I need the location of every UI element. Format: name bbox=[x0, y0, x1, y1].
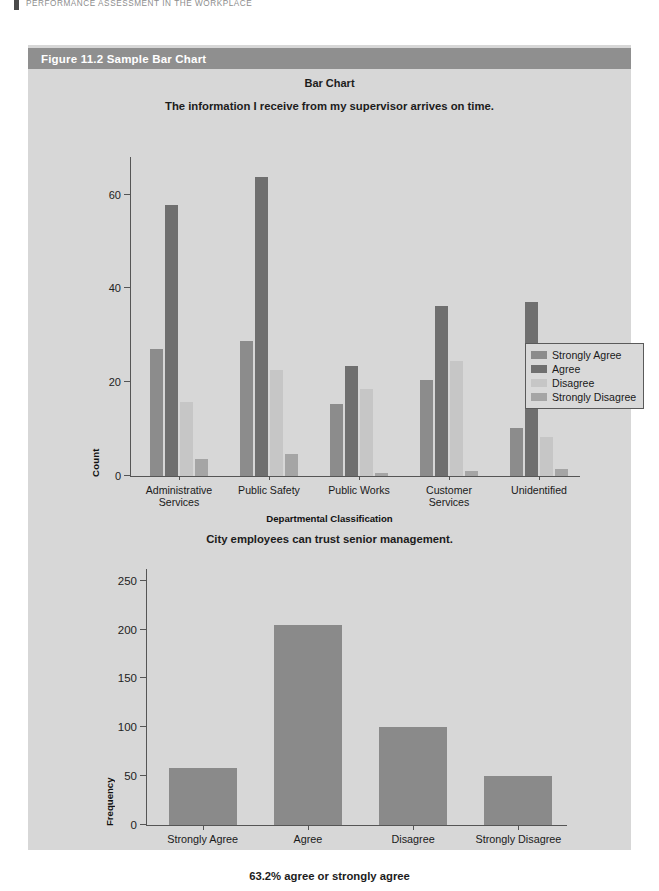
chart-2-y-tick bbox=[140, 677, 146, 678]
chart-1-x-tick bbox=[179, 476, 180, 480]
chart-1-y-tick-label: 20 bbox=[109, 376, 121, 388]
chart-1-y-tick-label: 60 bbox=[109, 189, 121, 201]
chart-1-x-tick bbox=[449, 476, 450, 480]
chart-1-x-tick-label: Unidentified bbox=[487, 484, 591, 496]
chart-1: Bar Chart The information I receive from… bbox=[28, 73, 631, 525]
chart-1-bar bbox=[420, 380, 433, 476]
chart-2-x-tick-label: Agree bbox=[293, 833, 322, 845]
chart-1-x-tick-label: Public Safety bbox=[217, 484, 321, 496]
chart-1-y-tick bbox=[124, 475, 130, 476]
chart-1-bar bbox=[375, 473, 388, 476]
chart-1-y-axis-line bbox=[130, 157, 131, 477]
chart-1-x-tick-label: Public Works bbox=[307, 484, 411, 496]
chart-2-x-tick-label: Strongly Disagree bbox=[475, 833, 561, 845]
chart-1-bar bbox=[540, 437, 553, 476]
chart-1-bar-group: Unidentified bbox=[510, 157, 568, 476]
chart-1-bar bbox=[180, 402, 193, 476]
chart-2-title: City employees can trust senior manageme… bbox=[28, 533, 631, 545]
chart-1-legend-swatch bbox=[531, 393, 547, 401]
chart-1-legend-label: Agree bbox=[552, 363, 580, 375]
chart-2-x-tick bbox=[203, 826, 204, 830]
chart-1-legend-swatch bbox=[531, 365, 547, 373]
chart-2-x-tick-label: Strongly Agree bbox=[167, 833, 238, 845]
chart-1-plot-area: 0204060Administrative ServicesPublic Saf… bbox=[130, 157, 580, 477]
chart-2-bar bbox=[274, 625, 342, 825]
running-head-text: Performance Assessment in the Workplace bbox=[26, 0, 252, 8]
chart-1-x-tick bbox=[539, 476, 540, 480]
chart-1-x-axis-line bbox=[130, 476, 580, 477]
chart-2-y-tick-label: 0 bbox=[131, 819, 137, 831]
chart-1-bar bbox=[345, 366, 358, 476]
chart-2-x-tick-label: Disagree bbox=[392, 833, 435, 845]
chart-1-bar-group: Administrative Services bbox=[150, 157, 208, 476]
figure-caption-bar: Figure 11.2 Sample Bar Chart bbox=[28, 48, 631, 69]
chart-2-y-axis-label: Frequency bbox=[104, 569, 115, 826]
chart-1-bar bbox=[255, 177, 268, 476]
vertical-rule-icon bbox=[14, 0, 19, 10]
chart-2-y-tick-label: 250 bbox=[118, 575, 137, 587]
chart-1-y-axis-label: Count bbox=[90, 157, 101, 477]
chart-1-x-tick bbox=[269, 476, 270, 480]
chart-1-bar bbox=[330, 404, 343, 476]
chart-1-bar bbox=[150, 349, 163, 476]
chart-1-x-tick-label: Customer Services bbox=[397, 484, 501, 508]
chart-2-plot-area: 050100150200250Strongly AgreeAgreeDisagr… bbox=[146, 569, 567, 826]
chart-1-bar-group: Customer Services bbox=[420, 157, 478, 476]
chart-1-legend: Strongly AgreeAgreeDisagreeStrongly Disa… bbox=[525, 343, 644, 409]
chart-1-bar bbox=[270, 370, 283, 476]
chart-2-y-axis-line bbox=[146, 569, 147, 826]
chart-2-y-tick-label: 100 bbox=[118, 721, 137, 733]
chart-2-y-tick-label: 50 bbox=[124, 770, 137, 782]
chart-1-y-tick bbox=[124, 381, 130, 382]
chart-1-bar bbox=[195, 459, 208, 476]
chart-1-bar-group: Public Safety bbox=[240, 157, 298, 476]
chart-1-bar bbox=[435, 306, 448, 476]
chart-2-x-tick bbox=[518, 826, 519, 830]
chart-1-bar bbox=[465, 471, 478, 476]
chart-1-bar bbox=[555, 469, 568, 477]
chart-1-legend-label: Strongly Agree bbox=[552, 349, 622, 361]
chart-1-subtitle: The information I receive from my superv… bbox=[28, 100, 631, 112]
chart-2-x-axis-line bbox=[146, 825, 567, 826]
figure-caption-label: Figure 11.2 Sample Bar Chart bbox=[28, 53, 206, 65]
chart-1-legend-swatch bbox=[531, 379, 547, 387]
chart-2-footer-note: 63.2% agree or strongly agree bbox=[28, 870, 631, 882]
chart-1-y-tick-label: 0 bbox=[115, 470, 121, 482]
chart-1-bar bbox=[285, 454, 298, 476]
chart-1-y-tick-label: 40 bbox=[109, 282, 121, 294]
chart-1-legend-item: Agree bbox=[531, 362, 636, 376]
chart-2-y-tick bbox=[140, 580, 146, 581]
chart-1-y-tick bbox=[124, 287, 130, 288]
chart-1-legend-item: Disagree bbox=[531, 376, 636, 390]
chart-1-bar-group: Public Works bbox=[330, 157, 388, 476]
chart-2-y-tick bbox=[140, 629, 146, 630]
chart-2-bar bbox=[169, 768, 237, 825]
chart-1-bar bbox=[360, 389, 373, 476]
chart-1-bar bbox=[240, 341, 253, 476]
chart-1-title: Bar Chart bbox=[28, 77, 631, 89]
chart-2-y-tick-label: 150 bbox=[118, 672, 137, 684]
chart-2-y-tick bbox=[140, 726, 146, 727]
chart-1-legend-label: Disagree bbox=[552, 377, 594, 389]
chart-1-x-tick bbox=[359, 476, 360, 480]
chart-1-legend-item: Strongly Agree bbox=[531, 348, 636, 362]
chart-2-y-tick bbox=[140, 824, 146, 825]
chart-2-x-tick bbox=[413, 826, 414, 830]
chart-2-x-tick bbox=[308, 826, 309, 830]
running-head: Performance Assessment in the Workplace bbox=[14, 0, 252, 10]
chart-1-legend-item: Strongly Disagree bbox=[531, 390, 636, 404]
chart-1-bar bbox=[510, 428, 523, 476]
chart-1-legend-label: Strongly Disagree bbox=[552, 391, 636, 403]
chart-2-bar bbox=[379, 727, 447, 825]
chart-1-legend-swatch bbox=[531, 351, 547, 359]
figure-panel: Figure 11.2 Sample Bar Chart Bar Chart T… bbox=[28, 45, 631, 850]
chart-1-x-tick-label: Administrative Services bbox=[127, 484, 231, 508]
chart-2-bar bbox=[484, 776, 552, 825]
chart-2-y-tick bbox=[140, 775, 146, 776]
chart-1-x-axis-label: Departmental Classification bbox=[28, 513, 631, 524]
chart-1-bar bbox=[165, 205, 178, 476]
chart-2: City employees can trust senior manageme… bbox=[28, 533, 631, 843]
chart-1-bar bbox=[450, 361, 463, 476]
chart-1-y-tick bbox=[124, 194, 130, 195]
chart-2-y-tick-label: 200 bbox=[118, 624, 137, 636]
